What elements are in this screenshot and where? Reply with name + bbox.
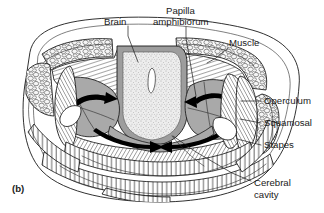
anatomical-cross-section-diagram: Brain Papilla amphibiorum Muscle Opercul… bbox=[0, 0, 324, 213]
label-muscle: Muscle bbox=[229, 37, 259, 48]
label-stapes: Stapes bbox=[264, 139, 294, 150]
label-operculum: Operculum bbox=[264, 95, 311, 106]
figure-container: Brain Papilla amphibiorum Muscle Opercul… bbox=[0, 0, 324, 213]
label-cerebral-cavity-line1: Cerebral bbox=[254, 177, 291, 188]
panel-label: (b) bbox=[12, 183, 24, 194]
label-squamosal: Squamosal bbox=[264, 117, 312, 128]
label-brain: Brain bbox=[104, 16, 126, 27]
label-papilla-amphibiorum-line2: amphibiorum bbox=[153, 16, 208, 27]
muscle-mass-left-lower bbox=[26, 63, 54, 116]
brain bbox=[117, 46, 187, 146]
label-cerebral-cavity-line2: cavity bbox=[254, 189, 279, 200]
label-papilla-amphibiorum-line1: Papilla bbox=[166, 5, 195, 16]
